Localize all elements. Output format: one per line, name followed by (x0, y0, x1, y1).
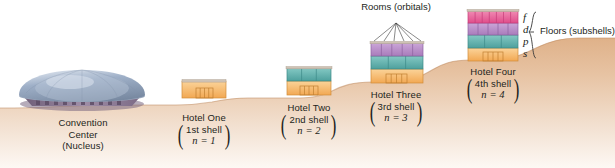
paren-open: ( (281, 114, 287, 136)
label-convention-center: Convention Center (Nucleus) (28, 117, 138, 152)
hotel-three-shell-group: ( 3rd shell n = 3 ) (354, 101, 438, 124)
rooms-line1: Rooms (361, 1, 391, 12)
hotel-one-n: n = 1 (192, 135, 215, 147)
hotel-three-shell: 3rd shell (378, 101, 415, 113)
paren-close: ) (514, 78, 520, 100)
convention-center-line1: Convention (28, 117, 138, 129)
hotel-three-n: n = 3 (384, 112, 407, 124)
label-hotel-one: Hotel One ( 1st shell n = 1 ) (166, 112, 242, 147)
hotel-four-shell: 4th shell (475, 78, 511, 90)
hotel-one-shell: 1st shell (186, 124, 222, 136)
hotel-two-building (286, 67, 332, 96)
hotel-three-name: Hotel Three (354, 89, 438, 101)
rooms-line2: (orbitals) (394, 1, 431, 12)
hotel-two-n: n = 2 (297, 125, 320, 137)
floors-line2: (subshells) (569, 25, 615, 36)
paren-close: ) (331, 114, 337, 136)
hotel-two-shell-group: ( 2nd shell n = 2 ) (271, 114, 347, 137)
paren-open: ( (178, 124, 184, 146)
hotel-two-shell: 2nd shell (290, 114, 329, 126)
figure-canvas: Convention Center (Nucleus) Hotel One ( … (0, 0, 615, 168)
paren-open: ( (369, 101, 375, 123)
label-hotel-two: Hotel Two ( 2nd shell n = 2 ) (271, 102, 347, 137)
rooms-leader-lines (374, 23, 421, 41)
hotel-four-n: n = 4 (481, 89, 504, 101)
hotel-four-name: Hotel Four (453, 66, 533, 78)
subshell-letter-p: p (523, 36, 529, 47)
subshell-letter-d: d (523, 24, 529, 35)
hotel-one-shell-group: ( 1st shell n = 1 ) (166, 124, 242, 147)
convention-center-line3: (Nucleus) (28, 140, 138, 152)
label-hotel-four: Hotel Four ( 4th shell n = 4 ) (453, 66, 533, 101)
floors-line1: Floors (540, 25, 566, 36)
hotel-four-shell-group: ( 4th shell n = 4 ) (453, 78, 533, 101)
convention-center-nucleus (19, 70, 145, 111)
paren-close: ) (417, 101, 423, 123)
hotel-four-building (467, 9, 519, 61)
subshell-letter-f: f (523, 12, 526, 23)
callout-floors-subshells: Floors (subshells) (540, 25, 612, 37)
convention-center-line2: Center (28, 129, 138, 141)
subshell-letter-s: s (523, 48, 527, 59)
label-hotel-three: Hotel Three ( 3rd shell n = 3 ) (354, 89, 438, 124)
hotel-three-building (370, 23, 424, 83)
hotel-one-building (182, 80, 226, 99)
callout-rooms-orbitals: Rooms (orbitals) (356, 1, 436, 13)
paren-close: ) (225, 124, 231, 146)
paren-open: ( (466, 78, 472, 100)
